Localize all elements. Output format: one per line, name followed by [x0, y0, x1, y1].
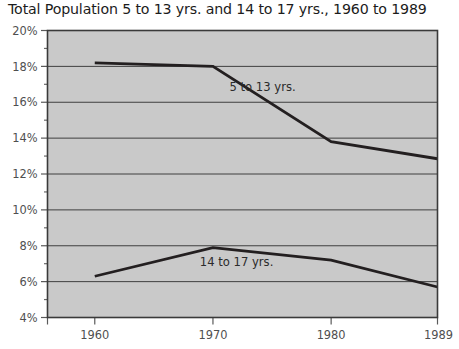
y-axis-tick-label: 6% — [19, 275, 37, 289]
chart-figure: Total Population 5 to 13 yrs. and 14 to … — [0, 0, 459, 349]
y-axis-tick-label: 4% — [19, 311, 37, 325]
y-axis-tick-label: 16% — [12, 95, 37, 109]
y-axis-ticks — [41, 31, 48, 318]
y-axis-tick-label: 14% — [12, 131, 37, 145]
series-inline-label: 5 to 13 yrs. — [229, 80, 295, 94]
x-axis-tick-label: 1970 — [198, 328, 227, 342]
y-axis-tick-label: 12% — [12, 167, 37, 181]
x-axis-tick-label: 1989 — [424, 328, 453, 342]
line-chart-plot: 4%6%8%10%12%14%16%18%20% 196019701980198… — [0, 0, 459, 349]
y-axis-tick-label: 20% — [12, 24, 37, 38]
x-axis-tick-label: 1960 — [80, 328, 109, 342]
y-axis-tick-label: 18% — [12, 60, 37, 74]
y-axis-tick-labels: 4%6%8%10%12%14%16%18%20% — [12, 24, 37, 325]
y-axis-tick-label: 10% — [12, 203, 37, 217]
x-axis-tick-label: 1980 — [317, 328, 346, 342]
series-inline-label: 14 to 17 yrs. — [200, 255, 274, 269]
x-axis-ticks — [48, 318, 438, 325]
x-axis-tick-labels: 1960197019801989 — [80, 328, 453, 342]
y-axis-tick-label: 8% — [19, 239, 37, 253]
